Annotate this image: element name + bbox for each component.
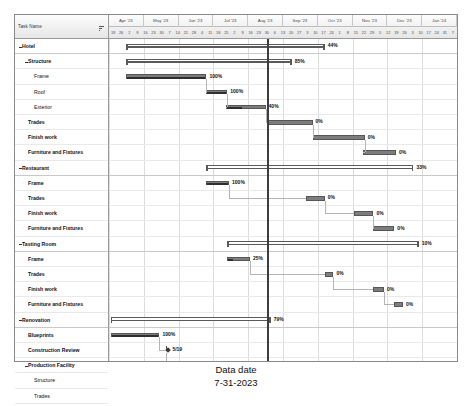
gantt-bars-area[interactable]: 44%85%100%100%40%0%0%0%33%100%0%0%0%10%2… [109, 39, 457, 361]
task-bar[interactable] [111, 333, 160, 338]
task-name-label: Trades [34, 389, 50, 404]
gantt-row[interactable]: 0% [109, 145, 457, 160]
task-bar[interactable] [363, 150, 396, 155]
gantt-row[interactable]: 0% [109, 130, 457, 145]
percent-complete-label: 10% [422, 240, 432, 246]
task-name-label: Blueprints [28, 328, 54, 343]
week-tick-label: 10 [417, 27, 425, 38]
task-row[interactable]: Furniture and Fixtures [15, 145, 108, 160]
task-bar[interactable] [354, 211, 373, 216]
filter-icon[interactable] [99, 26, 104, 29]
task-row[interactable]: Trades [15, 191, 108, 206]
task-row[interactable]: Frame [15, 69, 108, 84]
task-row[interactable]: Construction Review [15, 343, 108, 358]
week-tick-label: 15 [352, 27, 360, 38]
task-column-header[interactable]: Task Name [15, 15, 109, 39]
gantt-row[interactable]: 85% [109, 54, 457, 69]
task-row[interactable]: Hotel [15, 39, 108, 54]
gantt-row[interactable]: 80% [109, 358, 457, 361]
task-row[interactable]: Finish work [15, 206, 108, 221]
week-tick-label: 3 [303, 27, 311, 38]
task-bar[interactable] [267, 120, 312, 125]
month-label: Jun '23 [179, 15, 214, 27]
gantt-row[interactable]: 100% [109, 69, 457, 84]
task-name-label: Hotel [22, 39, 35, 54]
summary-bar[interactable] [111, 317, 271, 321]
week-scale: 1926291623307142128411182529162330613202… [109, 27, 457, 38]
gantt-row[interactable]: 0% [109, 221, 457, 236]
gantt-row[interactable]: 40% [109, 100, 457, 115]
gantt-row[interactable]: 0% [109, 115, 457, 130]
task-name-label: Finish work [28, 206, 57, 221]
gantt-row[interactable]: 100% [109, 328, 457, 343]
gantt-row[interactable]: 33% [109, 161, 457, 176]
week-tick-label: 26 [117, 27, 125, 38]
percent-complete-label: 33% [417, 164, 427, 170]
summary-bar-inner [128, 45, 323, 46]
task-row[interactable]: Exterior [15, 100, 108, 115]
week-tick-label: 18 [214, 27, 222, 38]
gantt-row[interactable]: 10% [109, 237, 457, 252]
week-tick-label: 2 [125, 27, 133, 38]
task-bar[interactable] [373, 287, 383, 292]
task-row[interactable]: Finish work [15, 130, 108, 145]
dependency-link [313, 137, 314, 138]
week-tick-label: 19 [109, 27, 117, 38]
timeline-header: Apr '23May '23Jun '23Jul '23Aug '23Sep '… [109, 15, 457, 39]
task-row[interactable]: Blueprints [15, 328, 108, 343]
task-row[interactable]: Trades [15, 267, 108, 282]
dependency-link [166, 353, 167, 362]
task-row[interactable]: Frame [15, 252, 108, 267]
task-bar[interactable] [325, 272, 334, 277]
task-row[interactable]: Furniture and Fixtures [15, 297, 108, 312]
week-tick-label: 8 [344, 27, 352, 38]
task-bar[interactable] [313, 135, 365, 140]
week-tick-label: 21 [182, 27, 190, 38]
dependency-link [384, 292, 385, 305]
task-row[interactable]: Tasting Room [15, 237, 108, 252]
task-name-column[interactable]: HotelStructureFrameRoofExteriorTradesFin… [15, 39, 109, 361]
percent-complete-label: 85% [295, 58, 305, 64]
dependency-link [333, 277, 334, 290]
task-row[interactable]: Furniture and Fixtures [15, 221, 108, 236]
task-row[interactable]: Trades [15, 115, 108, 130]
task-row[interactable]: Roof [15, 85, 108, 100]
dependency-link [250, 274, 325, 275]
summary-bar[interactable] [206, 165, 413, 169]
gantt-row[interactable]: 25% [109, 252, 457, 267]
task-bar[interactable] [206, 181, 229, 186]
task-name-label: Frame [34, 69, 49, 84]
week-tick-label: 11 [206, 27, 214, 38]
gantt-row[interactable]: 0% [109, 282, 457, 297]
task-row[interactable]: Finish work [15, 282, 108, 297]
task-name-label: Roof [34, 85, 45, 100]
gantt-row[interactable]: 100% [109, 176, 457, 191]
task-row[interactable]: Restaurant [15, 161, 108, 176]
task-bar[interactable] [227, 257, 250, 262]
gantt-row[interactable]: 44% [109, 39, 457, 54]
gantt-row[interactable]: 0% [109, 297, 457, 312]
summary-bar-inner [208, 166, 412, 167]
gantt-row[interactable]: 0% [109, 206, 457, 221]
summary-bar[interactable] [227, 241, 418, 245]
week-tick-label: 23 [255, 27, 263, 38]
week-tick-label: 12 [384, 27, 392, 38]
task-row[interactable]: Frame [15, 176, 108, 191]
task-bar[interactable] [226, 105, 266, 110]
chart-caption: Data date 7-31-2023 [0, 364, 472, 389]
task-row[interactable]: Trades [15, 389, 108, 404]
gantt-row[interactable]: 100% [109, 85, 457, 100]
task-bar[interactable] [206, 90, 227, 95]
gantt-row[interactable]: 79% [109, 313, 457, 328]
task-bar[interactable] [394, 302, 403, 307]
week-tick-label: 22 [360, 27, 368, 38]
task-row[interactable]: Structure [15, 54, 108, 69]
task-bar[interactable] [126, 74, 206, 79]
task-row[interactable]: Renovation [15, 313, 108, 328]
summary-bar[interactable] [126, 44, 324, 48]
task-bar[interactable] [306, 196, 325, 201]
percent-complete-label: 0% [376, 210, 383, 216]
task-name-label: Trades [28, 115, 45, 130]
dependency-link [266, 109, 267, 122]
task-bar[interactable] [373, 226, 394, 231]
